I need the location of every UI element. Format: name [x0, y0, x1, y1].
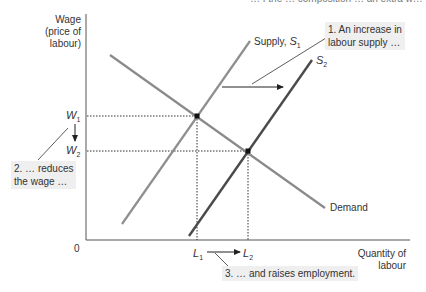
- x-axis-label-line1: Quantity of: [340, 248, 406, 260]
- note3-leader: [215, 253, 228, 266]
- l2-label: L2: [243, 247, 253, 264]
- equilibrium-point-2: [246, 149, 251, 154]
- origin-label: 0: [74, 243, 80, 255]
- y-axis-label: Wage (price of labour): [36, 14, 81, 50]
- supply-curve-s2: [189, 60, 312, 236]
- w1-label: W1: [66, 109, 80, 126]
- annotation-1-line1: 1. An increase in: [328, 23, 402, 36]
- y-axis-label-line3: labour): [36, 38, 81, 50]
- y-axis-label-line2: (price of: [36, 26, 81, 38]
- annotation-3: 3. … and raises employment.: [222, 266, 358, 281]
- note2-leader: [38, 128, 68, 160]
- annotation-2: 2. … reduces the wage …: [11, 161, 76, 189]
- y-axis-label-line1: Wage: [36, 14, 81, 26]
- labour-market-diagram: … f the … composition … an extra w…: [0, 0, 426, 292]
- annotation-2-line1: 2. … reduces: [14, 162, 73, 175]
- l1-label: L1: [193, 247, 203, 264]
- w2-label: W2: [66, 144, 80, 161]
- annotation-1-line2: labour supply …: [328, 36, 402, 49]
- supply-curve-s1: [122, 41, 250, 224]
- demand-label: Demand: [330, 202, 368, 214]
- annotation-2-line2: the wage …: [14, 175, 73, 188]
- supply-s1-label: Supply, S1: [254, 35, 301, 52]
- annotation-1: 1. An increase in labour supply …: [325, 22, 405, 50]
- demand-curve: [110, 55, 325, 208]
- equilibrium-point-1: [195, 114, 200, 119]
- supply-s2-label: S2: [316, 54, 327, 71]
